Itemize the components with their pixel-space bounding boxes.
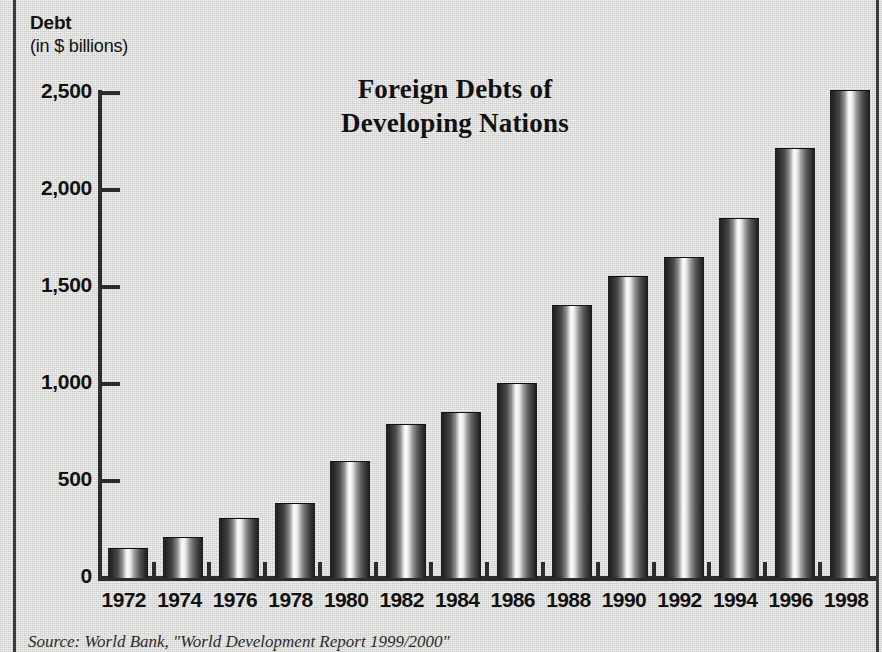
x-axis-tick-label: 1994 xyxy=(707,588,763,612)
x-axis-tick xyxy=(374,562,378,577)
x-axis-tick-label: 1992 xyxy=(652,588,708,612)
y-axis-tick-label: 2,500 xyxy=(6,79,92,103)
x-axis-tick xyxy=(263,562,267,577)
x-axis-tick xyxy=(152,562,156,577)
x-axis-tick-label: 1986 xyxy=(485,588,541,612)
x-axis-tick-label: 1990 xyxy=(596,588,652,612)
x-axis-tick xyxy=(318,562,322,577)
bar xyxy=(330,461,370,578)
x-axis-tick xyxy=(707,562,711,577)
bar xyxy=(830,90,870,578)
x-axis-tick-label: 1988 xyxy=(541,588,597,612)
bar xyxy=(664,257,704,578)
y-axis-tick-label: 1,000 xyxy=(6,370,92,394)
x-axis-tick-label: 1972 xyxy=(96,588,152,612)
y-axis-tick-labels: 05001,0001,5002,0002,500 xyxy=(0,0,92,652)
x-axis-tick-label: 1982 xyxy=(374,588,430,612)
y-axis-tick-label: 0 xyxy=(6,564,92,588)
x-axis-tick xyxy=(485,562,489,577)
y-axis-tick-label: 2,000 xyxy=(6,176,92,200)
bar xyxy=(552,305,592,578)
bar xyxy=(608,276,648,578)
bar xyxy=(775,148,815,578)
x-axis-tick xyxy=(541,562,545,577)
bar xyxy=(719,218,759,578)
x-axis-tick xyxy=(818,562,822,577)
x-axis-tick xyxy=(207,562,211,577)
bar xyxy=(275,503,315,578)
bar-series xyxy=(98,0,876,652)
bar xyxy=(441,412,481,578)
x-axis-tick-label: 1978 xyxy=(263,588,319,612)
x-axis-tick-label: 1984 xyxy=(429,588,485,612)
bar-chart: Debt (in $ billions) Foreign Debts of De… xyxy=(0,0,882,652)
x-axis-tick-label: 1980 xyxy=(318,588,374,612)
y-axis-tick-label: 500 xyxy=(6,467,92,491)
y-axis-tick-label: 1,500 xyxy=(6,273,92,297)
bar xyxy=(386,424,426,578)
x-axis-tick xyxy=(652,562,656,577)
x-axis-tick xyxy=(429,562,433,577)
x-axis-tick-label: 1974 xyxy=(152,588,208,612)
source-note: Source: World Bank, "World Development R… xyxy=(28,632,450,652)
x-axis-tick xyxy=(596,562,600,577)
x-axis-tick-label: 1996 xyxy=(763,588,819,612)
x-axis-tick-label: 1998 xyxy=(818,588,874,612)
x-axis-tick xyxy=(763,562,767,577)
bar xyxy=(108,548,148,578)
bar xyxy=(163,537,203,578)
bar xyxy=(219,518,259,578)
x-axis-tick-label: 1976 xyxy=(207,588,263,612)
bar xyxy=(497,383,537,578)
